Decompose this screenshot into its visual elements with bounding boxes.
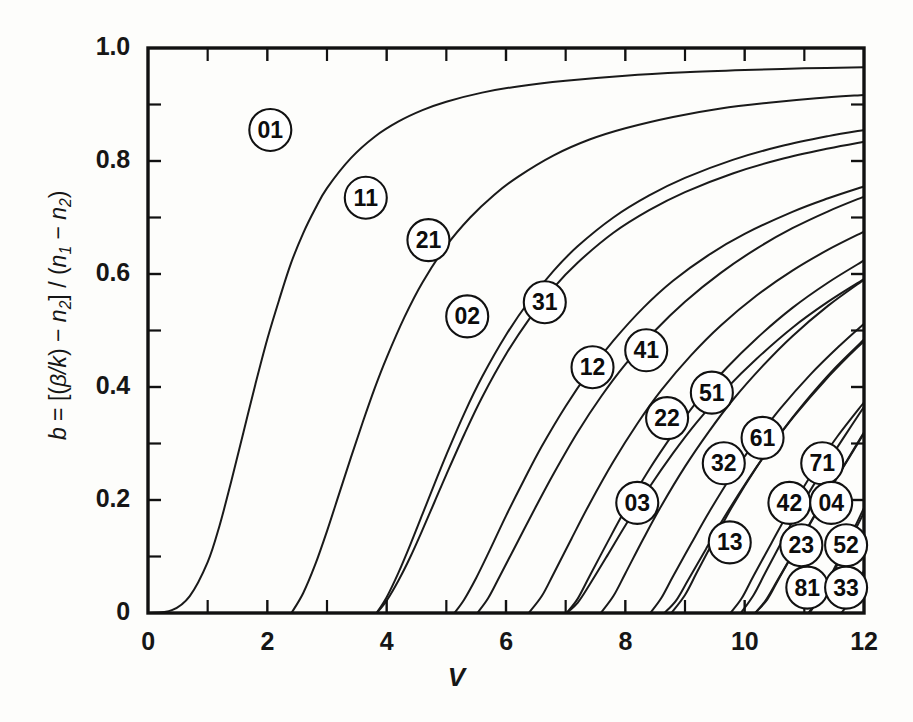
y-axis-label-close2: ) bbox=[45, 191, 71, 199]
y-axis-label-b: b bbox=[45, 427, 71, 440]
mode-label-text-51: 51 bbox=[699, 380, 725, 406]
mode-label-text-12: 12 bbox=[580, 354, 606, 380]
y-axis-label-eq: = [( bbox=[45, 387, 71, 427]
curves-group bbox=[148, 67, 864, 613]
y-axis-label-minus: − bbox=[45, 220, 71, 246]
y-axis-label-bracket: ] / ( bbox=[45, 267, 71, 300]
mode-label-12: 12 bbox=[572, 346, 614, 388]
y-axis-label-n2b: n bbox=[45, 207, 71, 220]
mode-labels-group: 0111210231124122510332611342710423528133 bbox=[249, 109, 867, 609]
mode-label-text-33: 33 bbox=[833, 575, 859, 601]
mode-label-32: 32 bbox=[703, 442, 745, 484]
x-tick-label-3: 6 bbox=[466, 627, 546, 656]
y-axis-label-beta: β bbox=[45, 374, 71, 387]
mode-label-text-31: 31 bbox=[532, 289, 558, 315]
mode-label-21: 21 bbox=[407, 219, 449, 261]
mode-label-text-02: 02 bbox=[454, 303, 480, 329]
mode-label-text-32: 32 bbox=[711, 450, 737, 476]
y-axis-label-close1: ) − bbox=[45, 322, 71, 356]
mode-label-11: 11 bbox=[345, 177, 387, 219]
x-tick-label-0: 0 bbox=[108, 627, 188, 656]
y-axis-label-slash-k: /k bbox=[45, 356, 71, 374]
mode-label-41: 41 bbox=[625, 329, 667, 371]
y-axis-label-n1: n bbox=[45, 255, 71, 268]
mode-label-13: 13 bbox=[709, 521, 751, 563]
mode-label-text-21: 21 bbox=[416, 227, 442, 253]
x-tick-label-6: 12 bbox=[824, 627, 904, 656]
mode-label-81: 81 bbox=[786, 567, 828, 609]
mode-label-text-41: 41 bbox=[633, 337, 659, 363]
mode-label-31: 31 bbox=[524, 281, 566, 323]
mode-label-04: 04 bbox=[810, 482, 852, 524]
x-tick-label-2: 4 bbox=[347, 627, 427, 656]
mode-label-22: 22 bbox=[646, 397, 688, 439]
mode-label-text-22: 22 bbox=[654, 405, 680, 431]
mode-label-33: 33 bbox=[825, 567, 867, 609]
mode-label-text-81: 81 bbox=[795, 575, 821, 601]
x-axis-label: V bbox=[0, 662, 913, 693]
mode-label-23: 23 bbox=[780, 524, 822, 566]
y-axis-label-sub1: 1 bbox=[57, 246, 74, 255]
bv-diagram-figure: 0111210231124122510332611342710423528133… bbox=[0, 0, 913, 722]
plot-canvas: 0111210231124122510332611342710423528133 bbox=[0, 0, 913, 722]
mode-label-text-61: 61 bbox=[750, 425, 776, 451]
y-axis-label: b = [(β/k) − n2] / (n1 − n2) bbox=[45, 55, 76, 575]
mode-label-text-11: 11 bbox=[354, 185, 379, 211]
mode-label-text-01: 01 bbox=[258, 117, 284, 143]
x-tick-label-5: 10 bbox=[705, 627, 785, 656]
mode-label-01: 01 bbox=[249, 109, 291, 151]
y-tick-label-0: 0 bbox=[20, 597, 130, 626]
mode-label-51: 51 bbox=[691, 372, 733, 414]
curve-lp01 bbox=[148, 67, 864, 613]
x-tick-label-4: 8 bbox=[585, 627, 665, 656]
mode-label-text-03: 03 bbox=[624, 490, 650, 516]
mode-label-61: 61 bbox=[742, 417, 784, 459]
mode-label-71: 71 bbox=[801, 442, 843, 484]
mode-label-52: 52 bbox=[825, 524, 867, 566]
x-tick-label-1: 2 bbox=[227, 627, 307, 656]
y-axis-label-sub2a: 2 bbox=[57, 301, 74, 310]
mode-label-text-42: 42 bbox=[777, 490, 803, 516]
mode-label-02: 02 bbox=[446, 295, 488, 337]
mode-label-03: 03 bbox=[616, 482, 658, 524]
mode-label-text-13: 13 bbox=[717, 529, 743, 555]
mode-label-text-04: 04 bbox=[818, 490, 844, 516]
y-axis-label-sub2b: 2 bbox=[57, 198, 74, 207]
y-axis-label-n2a: n bbox=[45, 309, 71, 322]
mode-label-42: 42 bbox=[768, 482, 810, 524]
mode-label-text-23: 23 bbox=[789, 532, 815, 558]
mode-label-text-52: 52 bbox=[833, 532, 859, 558]
mode-label-text-71: 71 bbox=[809, 450, 835, 476]
